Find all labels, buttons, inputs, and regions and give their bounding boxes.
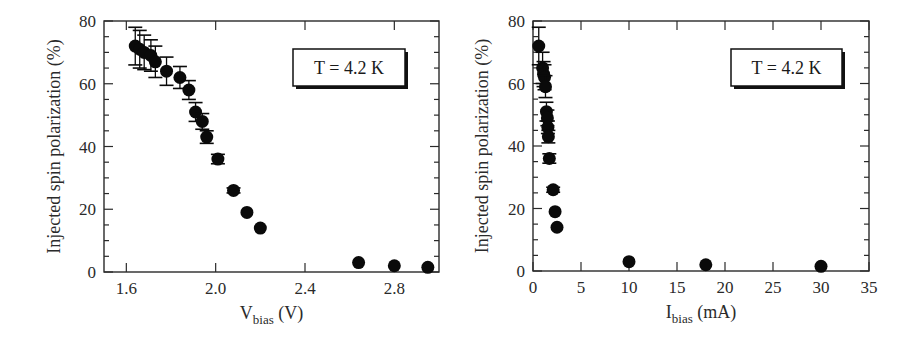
x-tick-label: 25: [765, 278, 782, 297]
data-point: [182, 81, 196, 100]
figure-canvas: 0204060801.62.02.42.8Vbias (V)Injected s…: [0, 0, 921, 341]
x-tick-label: 10: [621, 278, 638, 297]
data-point: [352, 256, 365, 269]
legend-text: T = 4.2 K: [314, 58, 384, 78]
data-point: [541, 130, 555, 143]
data-point: [388, 259, 401, 272]
data-point: [240, 206, 253, 219]
y-tick-label: 20: [508, 200, 525, 219]
y-tick-label: 0: [517, 262, 526, 281]
data-point: [227, 184, 241, 197]
legend-text: T = 4.2 K: [752, 58, 822, 78]
data-point: [200, 131, 214, 144]
data-point: [254, 222, 267, 235]
chart-panel-voltage: 0204060801.62.02.42.8Vbias (V)Injected s…: [44, 12, 439, 327]
y-tick-label: 40: [508, 137, 525, 156]
data-point: [549, 205, 562, 218]
y-tick-label: 80: [79, 12, 96, 31]
data-point: [532, 27, 546, 65]
data-point: [211, 153, 225, 166]
x-tick-label: 2.0: [205, 279, 226, 298]
data-point: [815, 260, 828, 273]
x-axis-label: Vbias (V): [240, 303, 303, 327]
data-point: [546, 183, 560, 196]
chart-panel-current: 02040608005101520253035Ibias (mA)Injecte…: [472, 12, 878, 326]
x-tick-label: 1.6: [116, 279, 137, 298]
data-point: [551, 221, 564, 234]
y-tick-label: 40: [79, 138, 96, 157]
y-tick-label: 60: [79, 75, 96, 94]
y-tick-label: 0: [88, 263, 97, 282]
y-axis-label: Injected spin polarization (%): [472, 39, 493, 253]
x-tick-label: 2.4: [294, 279, 316, 298]
x-tick-label: 15: [669, 278, 686, 297]
y-tick-label: 80: [508, 12, 525, 31]
data-point: [542, 152, 556, 165]
y-axis-label: Injected spin polarization (%): [44, 39, 65, 253]
x-tick-label: 5: [577, 278, 586, 297]
x-tick-label: 0: [529, 278, 538, 297]
y-tick-label: 60: [508, 75, 525, 94]
x-tick-label: 20: [717, 278, 734, 297]
data-point: [699, 258, 712, 271]
data-point: [421, 261, 434, 274]
x-tick-label: 35: [861, 278, 878, 297]
x-axis-label: Ibias (mA): [666, 302, 736, 326]
data-point: [623, 255, 636, 268]
legend-box: T = 4.2 K: [293, 49, 408, 89]
x-tick-label: 2.8: [384, 279, 405, 298]
y-tick-label: 20: [79, 200, 96, 219]
x-tick-label: 30: [813, 278, 830, 297]
legend-box: T = 4.2 K: [731, 49, 845, 89]
